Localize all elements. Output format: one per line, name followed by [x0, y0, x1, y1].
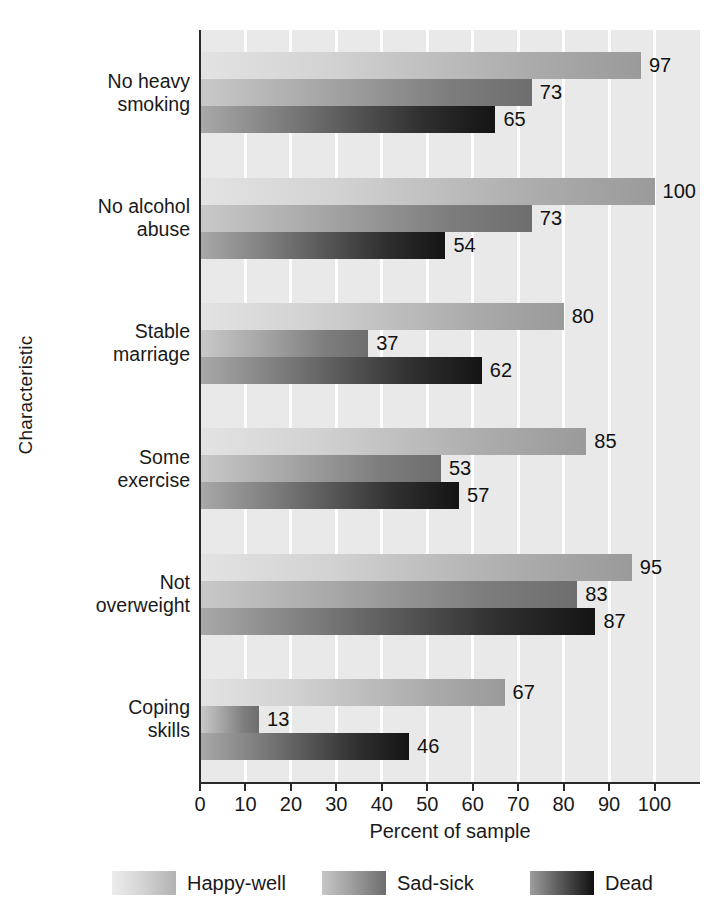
- legend-label: Happy-well: [187, 872, 286, 895]
- gridline: [426, 30, 429, 782]
- bar-value-label: 65: [503, 106, 525, 133]
- bar-dead: [200, 106, 495, 133]
- x-axis-tick-label: 0: [194, 793, 205, 816]
- bar-value-label: 73: [540, 79, 562, 106]
- bar-value-label: 95: [640, 554, 662, 581]
- bar-dead: [200, 733, 409, 760]
- x-axis-tick: [381, 782, 383, 791]
- bar-value-label: 67: [513, 679, 535, 706]
- category-label: No heavy smoking: [40, 70, 190, 116]
- gridline: [517, 30, 520, 782]
- x-axis-line: [200, 782, 700, 784]
- gridline: [562, 30, 565, 782]
- x-axis-tick: [654, 782, 656, 791]
- x-axis-tick: [608, 782, 610, 791]
- bar-value-label: 46: [417, 733, 439, 760]
- bar-sad-sick: [200, 330, 368, 357]
- legend-label: Dead: [605, 872, 653, 895]
- x-axis-tick-label: 20: [280, 793, 302, 816]
- bar-happy-well: [200, 303, 564, 330]
- bar-value-label: 57: [467, 482, 489, 509]
- x-axis-tick: [472, 782, 474, 791]
- category-label-column: No heavy smokingNo alcohol abuseStable m…: [44, 30, 194, 782]
- bar-happy-well: [200, 428, 586, 455]
- category-label: Stable marriage: [40, 320, 190, 366]
- y-axis-title: Characteristic: [6, 0, 46, 790]
- x-axis-title: Percent of sample: [200, 820, 700, 843]
- y-axis-line: [199, 30, 201, 782]
- bar-value-label: 73: [540, 205, 562, 232]
- x-axis-tick-label: 70: [507, 793, 529, 816]
- bar-happy-well: [200, 679, 505, 706]
- bar-sad-sick: [200, 581, 577, 608]
- bar-happy-well: [200, 52, 641, 79]
- legend-swatch-icon: [322, 871, 386, 895]
- legend-swatch-icon: [112, 871, 176, 895]
- x-axis-tick: [244, 782, 246, 791]
- bar-happy-well: [200, 554, 632, 581]
- x-axis-tick-label: 80: [553, 793, 575, 816]
- x-axis-tick-label: 30: [325, 793, 347, 816]
- chart-legend: Happy-wellSad-sickDead: [0, 866, 710, 900]
- bar-sad-sick: [200, 706, 259, 733]
- bar-happy-well: [200, 178, 655, 205]
- bar-value-label: 100: [663, 178, 696, 205]
- bar-value-label: 83: [585, 581, 607, 608]
- legend-swatch-icon: [530, 871, 594, 895]
- category-label: Coping skills: [40, 696, 190, 742]
- bar-value-label: 37: [376, 330, 398, 357]
- y-axis-title-text: Characteristic: [15, 336, 37, 455]
- x-axis-tick-label: 60: [462, 793, 484, 816]
- gridline: [244, 30, 247, 782]
- bar-sad-sick: [200, 455, 441, 482]
- gridline: [289, 30, 292, 782]
- legend-item-happy-well[interactable]: Happy-well: [112, 871, 286, 895]
- gridline: [608, 30, 611, 782]
- gridline: [653, 30, 656, 782]
- bar-value-label: 87: [603, 608, 625, 635]
- legend-label: Sad-sick: [397, 872, 474, 895]
- bar-dead: [200, 608, 595, 635]
- chart-figure: Characteristic No heavy smokingNo alcoho…: [0, 0, 710, 915]
- category-label: No alcohol abuse: [40, 195, 190, 241]
- x-axis-tick: [426, 782, 428, 791]
- x-axis-tick: [290, 782, 292, 791]
- bar-sad-sick: [200, 79, 532, 106]
- bar-value-label: 53: [449, 455, 471, 482]
- legend-item-dead[interactable]: Dead: [530, 871, 653, 895]
- x-axis-tick-label: 100: [638, 793, 671, 816]
- bar-dead: [200, 357, 482, 384]
- bar-value-label: 13: [267, 706, 289, 733]
- bar-value-label: 97: [649, 52, 671, 79]
- bar-value-label: 80: [572, 303, 594, 330]
- x-axis-tick: [335, 782, 337, 791]
- x-axis-tick-label: 90: [598, 793, 620, 816]
- bar-dead: [200, 232, 445, 259]
- category-label: Some exercise: [40, 446, 190, 492]
- category-label: Not overweight: [40, 571, 190, 617]
- gridline: [335, 30, 338, 782]
- bar-value-label: 85: [594, 428, 616, 455]
- x-axis-tick-label: 40: [371, 793, 393, 816]
- plot-area: 9773651007354803762855357958387671346: [200, 30, 700, 782]
- bar-dead: [200, 482, 459, 509]
- x-axis-tick-label: 10: [234, 793, 256, 816]
- x-axis-tick: [563, 782, 565, 791]
- bar-sad-sick: [200, 205, 532, 232]
- gridline: [471, 30, 474, 782]
- x-axis-tick: [199, 782, 201, 791]
- x-axis-tick-label: 50: [416, 793, 438, 816]
- bar-value-label: 62: [490, 357, 512, 384]
- x-axis-tick: [517, 782, 519, 791]
- gridline: [380, 30, 383, 782]
- legend-item-sad-sick[interactable]: Sad-sick: [322, 871, 474, 895]
- bar-value-label: 54: [453, 232, 475, 259]
